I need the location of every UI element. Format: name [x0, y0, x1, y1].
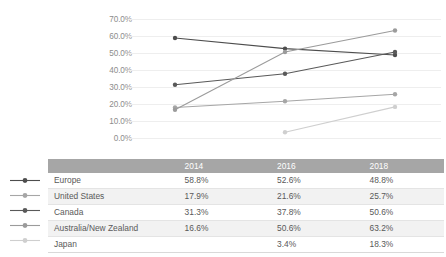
- cell-series-name: Canada: [48, 205, 167, 221]
- cell-value-2018: 48.8%: [352, 173, 445, 189]
- cell-value-2014: 17.9%: [167, 189, 259, 205]
- table-row: United States17.9%21.6%25.7%: [48, 189, 444, 205]
- table-row: Europe58.8%52.6%48.8%: [48, 173, 444, 189]
- data-point-2-1: [283, 72, 287, 76]
- legend-marker-icon: [8, 203, 42, 218]
- legend-marker-icon: [8, 188, 42, 203]
- cell-value-2016: 3.4%: [259, 237, 351, 253]
- cell-value-2014: [167, 237, 259, 253]
- data-point-1-1: [283, 99, 287, 103]
- table-header-row: 2014 2016 2018: [48, 159, 444, 173]
- series-line-2: [175, 52, 395, 85]
- legend-marker-icon: [8, 173, 42, 188]
- data-point-2-2: [393, 50, 397, 54]
- table-row: Canada31.3%37.8%50.6%: [48, 205, 444, 221]
- cell-value-2016: 50.6%: [259, 221, 351, 237]
- legend-marker-column: [0, 159, 48, 257]
- cell-value-2018: 18.3%: [352, 237, 445, 253]
- table-body: Europe58.8%52.6%48.8%United States17.9%2…: [48, 173, 444, 253]
- legend-marker-2: [0, 203, 48, 218]
- table-row: Australia/New Zealand16.6%50.6%63.2%: [48, 221, 444, 237]
- legend-marker-1: [0, 188, 48, 203]
- line-chart: 70.0% 60.0% 50.0% 40.0% 30.0% 20.0% 10.0…: [0, 0, 446, 160]
- cell-value-2016: 52.6%: [259, 173, 351, 189]
- header-cell-2016: 2016: [259, 159, 351, 173]
- legend-marker-icon: [8, 218, 42, 233]
- cell-value-2018: 25.7%: [352, 189, 445, 205]
- data-point-1-2: [393, 92, 397, 96]
- cell-series-name: Europe: [48, 173, 167, 189]
- data-point-4-1: [393, 105, 397, 109]
- legend-marker-3: [0, 218, 48, 233]
- series-layer: [173, 28, 397, 134]
- data-point-4-0: [283, 130, 287, 134]
- legend-marker-4: [0, 233, 48, 248]
- table-row: Japan3.4%18.3%: [48, 237, 444, 253]
- cell-value-2016: 21.6%: [259, 189, 351, 205]
- data-point-3-1: [283, 50, 287, 54]
- cell-value-2014: 16.6%: [167, 221, 259, 237]
- cell-value-2014: 58.8%: [167, 173, 259, 189]
- cell-series-name: United States: [48, 189, 167, 205]
- cell-series-name: Japan: [48, 237, 167, 253]
- data-point-0-0: [173, 36, 177, 40]
- legend-marker-icon: [8, 233, 42, 248]
- header-cell-2018: 2018: [352, 159, 445, 173]
- legend-marker-0: [0, 173, 48, 188]
- series-line-4: [285, 107, 395, 132]
- data-point-3-2: [393, 28, 397, 32]
- plot-canvas: [0, 0, 446, 160]
- header-cell-2014: 2014: [167, 159, 259, 173]
- header-cell-name: [48, 159, 167, 173]
- cell-value-2014: 31.3%: [167, 205, 259, 221]
- data-table: 2014 2016 2018 Europe58.8%52.6%48.8%Unit…: [48, 159, 444, 253]
- cell-value-2018: 50.6%: [352, 205, 445, 221]
- cell-value-2016: 37.8%: [259, 205, 351, 221]
- data-point-3-0: [173, 108, 177, 112]
- cell-value-2018: 63.2%: [352, 221, 445, 237]
- chart-page: 70.0% 60.0% 50.0% 40.0% 30.0% 20.0% 10.0…: [0, 0, 446, 257]
- legend-data-table: 2014 2016 2018 Europe58.8%52.6%48.8%Unit…: [0, 159, 446, 257]
- data-point-2-0: [173, 83, 177, 87]
- cell-series-name: Australia/New Zealand: [48, 221, 167, 237]
